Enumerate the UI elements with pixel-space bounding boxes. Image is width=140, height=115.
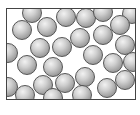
sphere-particle [37, 17, 57, 37]
sphere-particle [52, 37, 72, 57]
sphere-particle [83, 45, 103, 65]
sphere-particle [75, 67, 95, 87]
sphere-particle [17, 55, 37, 75]
sphere-particle [6, 43, 18, 63]
sphere-particle [15, 85, 35, 101]
sphere-particle [12, 20, 32, 40]
sphere-particle [30, 38, 50, 58]
sphere-particle [70, 28, 90, 48]
sphere-particle [123, 52, 137, 72]
sphere-particle [93, 8, 113, 22]
container-box [6, 8, 136, 100]
sphere-particle [110, 15, 130, 35]
diagram-canvas [0, 0, 140, 115]
sphere-particle [72, 85, 92, 101]
sphere-particle [56, 8, 76, 27]
sphere-particle [97, 78, 117, 98]
sphere-particle [103, 53, 123, 73]
sphere-particle [115, 70, 135, 90]
